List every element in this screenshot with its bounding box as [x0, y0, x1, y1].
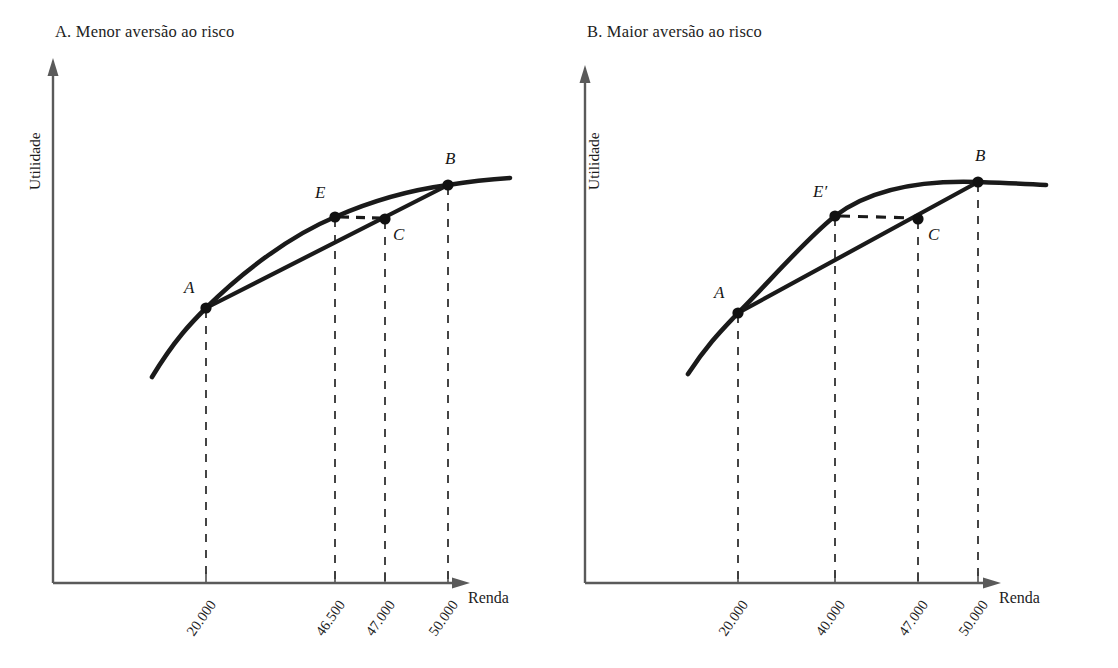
panel-b-point-E-prime — [829, 210, 840, 221]
panel-a-point-A — [200, 302, 211, 313]
panel-a-label-E: E — [315, 183, 325, 203]
panel-b-plot — [559, 0, 1118, 668]
panel-a-dashed-connector-e-c — [340, 217, 381, 218]
panel-b-label-C: C — [928, 225, 939, 245]
panel-b-label-B: B — [975, 146, 985, 166]
panel-b-droplines — [738, 184, 978, 581]
panel-a-y-axis — [48, 58, 59, 583]
panel-b: B. Maior aversão ao risco Utilidade Rend… — [559, 0, 1118, 668]
panel-a-point-B — [442, 179, 453, 190]
figure-root: A. Menor aversão ao risco Utilidade Rend… — [0, 0, 1118, 668]
panel-a-label-A: A — [184, 278, 194, 298]
panel-a-plot — [0, 0, 559, 668]
panel-a: A. Menor aversão ao risco Utilidade Rend… — [0, 0, 559, 668]
panel-a-point-C — [379, 213, 390, 224]
panel-a-point-E — [329, 211, 340, 222]
panel-b-point-A — [732, 307, 743, 318]
panel-b-utility-curve — [688, 182, 1046, 374]
panel-b-label-E-prime: E′ — [813, 182, 827, 202]
panel-b-dashed-connector-eprime-c — [840, 216, 914, 218]
panel-b-x-axis — [585, 578, 1001, 589]
panel-b-label-A: A — [714, 283, 724, 303]
panel-a-x-axis — [53, 578, 470, 589]
panel-b-point-B — [972, 176, 983, 187]
panel-a-label-B: B — [445, 149, 455, 169]
panel-b-x-ticks — [738, 572, 978, 583]
panel-a-x-ticks — [206, 572, 448, 583]
panel-b-y-axis — [580, 65, 591, 583]
panel-a-chord-ab — [206, 185, 448, 308]
panel-b-point-C — [912, 213, 923, 224]
panel-a-label-C: C — [393, 225, 404, 245]
